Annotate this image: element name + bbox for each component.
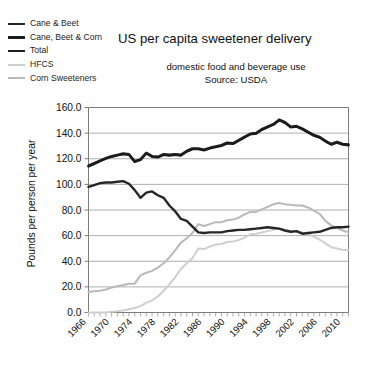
y-tick-labels: 0.020.040.060.080.0100.0120.0140.0160.0	[56, 102, 82, 318]
x-tick-label: 1978	[134, 316, 157, 339]
plot-svg: 0.020.040.060.080.0100.0120.0140.0160.0 …	[0, 0, 366, 366]
gridlines	[85, 108, 349, 313]
y-tick-label: 20.0	[62, 281, 82, 292]
series-line-corn-sweeteners	[89, 203, 349, 292]
x-tick-label: 1966	[65, 316, 88, 339]
series-line-hfcs	[89, 229, 349, 313]
x-tick-label: 1990	[204, 316, 227, 339]
y-tick-label: 100.0	[56, 179, 82, 190]
x-tick-label: 2006	[296, 316, 319, 339]
x-tick-labels: 1966197019741978198219861990199419982002…	[65, 316, 342, 339]
y-tick-label: 80.0	[62, 205, 82, 216]
data-series	[89, 120, 349, 313]
plot-area: 0.020.040.060.080.0100.0120.0140.0160.0 …	[0, 0, 366, 366]
y-tick-label: 160.0	[56, 102, 82, 113]
y-tick-label: 140.0	[56, 128, 82, 139]
x-tick-label: 2010	[319, 316, 342, 339]
y-tick-label: 40.0	[62, 256, 82, 267]
x-tick-label: 1982	[157, 316, 180, 339]
y-tick-label: 120.0	[56, 153, 82, 164]
x-tick-label: 1970	[88, 316, 111, 339]
y-tick-label: 60.0	[62, 230, 82, 241]
series-line-cane-beet-corn	[89, 120, 349, 166]
x-tick-label: 1974	[111, 316, 134, 339]
x-tick-label: 1998	[250, 316, 273, 339]
chart-container: Cane & BeetCane, Beet & CornTotalHFCSCor…	[0, 0, 366, 366]
x-tick-label: 1994	[227, 316, 250, 339]
x-tick-label: 1986	[181, 316, 204, 339]
x-tick-label: 2002	[273, 316, 296, 339]
